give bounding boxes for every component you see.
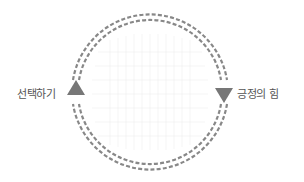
label-select: 선택하기 [17,85,56,101]
arrow-down-icon [215,88,233,103]
background-grid [92,34,208,150]
arrow-up-icon [67,80,85,95]
label-positive-power: 긍정의 힘 [237,85,279,101]
